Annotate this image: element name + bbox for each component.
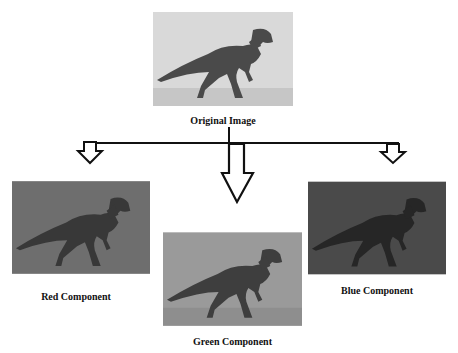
dinosaur-image-red — [12, 180, 150, 275]
original-image — [153, 12, 293, 106]
blue-component-image — [308, 180, 446, 276]
red-component-image — [12, 180, 150, 275]
dinosaur-image-green — [163, 232, 302, 326]
red-component-caption: Red Component — [12, 291, 140, 302]
green-component-caption: Green Component — [163, 336, 302, 347]
dinosaur-image-blue — [308, 180, 446, 276]
arrow-to-blue — [381, 144, 405, 163]
dinosaur-image-original — [153, 12, 293, 106]
blue-component-caption: Blue Component — [308, 285, 446, 296]
arrow-to-red — [78, 142, 102, 163]
original-caption: Original Image — [153, 115, 293, 126]
green-component-image — [163, 232, 302, 326]
arrow-to-green — [222, 144, 253, 202]
